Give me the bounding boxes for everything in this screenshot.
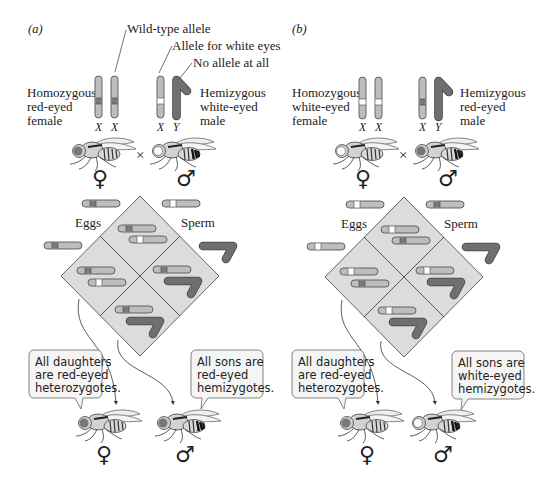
offspring-chromosome xyxy=(381,226,419,233)
offspring-chromosome xyxy=(392,237,430,244)
sons-speech-bubble: All sons are white-eyed hemizygotes. xyxy=(452,351,535,410)
daughters-speech-bubble: All daughters are red-eyed heterozygotes… xyxy=(29,350,121,409)
sex-linked-inheritance-diagram: (a) Wild-type allele Allele for white ey… xyxy=(0,0,544,480)
offspring-chromosome xyxy=(153,266,191,273)
x-label: X xyxy=(156,121,165,133)
sperm-y-chromosome xyxy=(466,247,496,260)
offspring-chromosome xyxy=(118,225,156,232)
offspring-chromosome xyxy=(129,236,167,243)
x-label: X xyxy=(110,121,119,133)
female-symbol: ♀ xyxy=(359,442,375,467)
male-symbol: ♂ xyxy=(433,442,453,467)
male-symbol: ♂ xyxy=(176,166,196,191)
offspring-chromosome xyxy=(351,280,389,287)
svg-text:are red-eyed: are red-eyed xyxy=(298,368,372,382)
y-label: Y xyxy=(435,121,443,133)
svg-text:female: female xyxy=(27,113,63,128)
cross-symbol: × xyxy=(136,147,144,163)
svg-text:Hemizygous: Hemizygous xyxy=(200,85,266,100)
male-symbol: ♂ xyxy=(175,442,195,467)
egg-chromosome xyxy=(346,201,384,208)
svg-text:hemizygotes.: hemizygotes. xyxy=(197,381,274,395)
eggs-label: Eggs xyxy=(75,215,101,230)
egg-chromosome xyxy=(307,243,345,250)
sperm-x-chromosome xyxy=(162,200,200,207)
offspring-chromosome xyxy=(77,267,115,274)
male-label: Hemizygous white-eyed male xyxy=(200,85,266,128)
svg-text:heterozygotes.: heterozygotes. xyxy=(35,381,121,395)
sperm-y-chromosome xyxy=(203,246,233,259)
red-eyed-daughter-fly-icon xyxy=(76,410,142,443)
male-y-chromosome xyxy=(177,80,188,116)
female-label: Homozygous white-eyed female xyxy=(292,85,361,128)
svg-text:red-eyed: red-eyed xyxy=(460,99,506,114)
svg-text:Hemizygous: Hemizygous xyxy=(460,85,526,100)
female-x-chromosome xyxy=(375,77,382,119)
svg-text:white-eyed: white-eyed xyxy=(200,99,258,114)
female-x-chromosome xyxy=(359,77,366,119)
male-y-chromosome xyxy=(439,81,450,117)
svg-text:All daughters: All daughters xyxy=(35,355,111,369)
female-symbol: ♀ xyxy=(355,166,371,191)
x-label: X xyxy=(418,121,427,133)
male-label: Hemizygous red-eyed male xyxy=(460,85,526,128)
female-x-chromosome xyxy=(111,76,118,118)
sperm-x-chromosome xyxy=(426,201,464,208)
y-label: Y xyxy=(173,121,181,133)
svg-text:are red-eyed: are red-eyed xyxy=(35,368,109,382)
female-symbol: ♀ xyxy=(92,166,108,191)
svg-text:male: male xyxy=(200,113,225,128)
male-x-chromosome xyxy=(157,76,164,118)
male-x-chromosome xyxy=(419,77,426,119)
white-eyed-son-fly-icon xyxy=(410,410,476,443)
svg-text:female: female xyxy=(292,113,328,128)
callout-no-allele: No allele at all xyxy=(193,55,270,70)
svg-text:All sons are: All sons are xyxy=(458,356,524,370)
sperm-label: Sperm xyxy=(444,216,478,231)
offspring-chromosome xyxy=(88,279,126,286)
panel-label: (b) xyxy=(292,22,307,36)
sons-speech-bubble: All sons are red-eyed hemizygotes. xyxy=(191,350,274,409)
callout-white-allele: Allele for white eyes xyxy=(172,38,281,53)
female-x-chromosome xyxy=(95,76,102,118)
offspring-chromosome xyxy=(340,268,378,275)
svg-text:hemizygotes.: hemizygotes. xyxy=(458,382,535,396)
svg-text:Homozygous: Homozygous xyxy=(27,85,96,100)
svg-text:male: male xyxy=(460,113,485,128)
sperm-label: Sperm xyxy=(181,215,215,230)
svg-text:white-eyed: white-eyed xyxy=(292,99,350,114)
red-eyed-son-fly-icon xyxy=(155,410,221,443)
panel-a: (a) Wild-type allele Allele for white ey… xyxy=(27,21,281,467)
female-symbol: ♀ xyxy=(96,442,112,467)
eggs-label: Eggs xyxy=(341,216,367,231)
svg-text:heterozygotes.: heterozygotes. xyxy=(298,381,384,395)
svg-text:All daughters: All daughters xyxy=(298,355,374,369)
x-label: X xyxy=(374,121,383,133)
cross-symbol: × xyxy=(399,147,407,163)
offspring-chromosome xyxy=(378,307,416,314)
panel-label: (a) xyxy=(28,22,43,36)
offspring-chromosome xyxy=(416,267,454,274)
egg-chromosome xyxy=(44,242,82,249)
svg-text:red-eyed: red-eyed xyxy=(27,99,73,114)
callout-wild-type: Wild-type allele xyxy=(127,21,211,36)
female-label: Homozygous red-eyed female xyxy=(27,85,96,128)
daughters-speech-bubble: All daughters are red-eyed heterozygotes… xyxy=(292,350,384,409)
x-label: X xyxy=(358,121,367,133)
svg-text:red-eyed: red-eyed xyxy=(197,368,248,382)
panel-b: (b) Homozygous white-eyed female Hemizyg… xyxy=(292,22,535,467)
svg-text:Homozygous: Homozygous xyxy=(292,85,361,100)
offspring-chromosome xyxy=(115,306,153,313)
svg-text:All sons are: All sons are xyxy=(197,355,263,369)
svg-text:white-eyed: white-eyed xyxy=(458,369,522,383)
red-eyed-daughter-fly-icon xyxy=(338,410,404,443)
x-label: X xyxy=(94,121,103,133)
egg-chromosome xyxy=(82,200,120,207)
male-symbol: ♂ xyxy=(438,166,458,191)
